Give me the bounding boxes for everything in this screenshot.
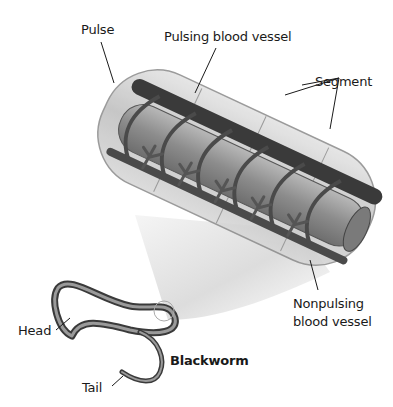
label-pulsing-blood-vessel: Pulsing blood vessel [164,29,291,44]
label-head: Head [18,323,51,338]
label-nonpulsing-line1: Nonpulsing [293,296,364,311]
label-nonpulsing-line2: blood vessel [293,314,372,329]
label-segment: Segment [315,74,372,89]
label-blackworm: Blackworm [170,353,249,368]
label-tail: Tail [82,380,102,395]
worm-illustration [0,0,393,407]
blackworm-diagram: Pulse Pulsing blood vessel Segment Nonpu… [0,0,393,407]
label-pulse: Pulse [81,22,114,37]
whole-worm [55,284,176,381]
